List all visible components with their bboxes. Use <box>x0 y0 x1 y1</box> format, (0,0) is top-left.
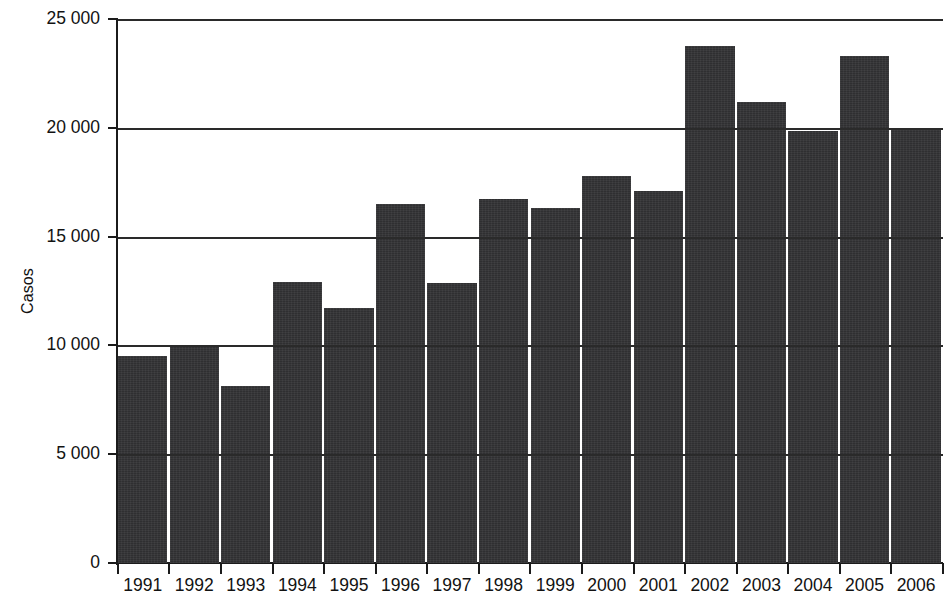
x-tick-2 <box>220 563 222 574</box>
x-tick-label-2000: 2000 <box>581 575 633 595</box>
x-tick-3 <box>272 563 274 574</box>
x-tick-12 <box>736 563 738 574</box>
bar-2003 <box>737 102 786 563</box>
x-tick-11 <box>684 563 686 574</box>
x-tick-4 <box>323 563 325 574</box>
bar-2006 <box>891 129 940 563</box>
bar-2004 <box>788 131 837 563</box>
y-tick-label-10000: 10 000 <box>16 336 100 354</box>
x-tick-7 <box>478 563 480 574</box>
x-tick-9 <box>581 563 583 574</box>
x-tick-15 <box>890 563 892 574</box>
x-tick-label-1992: 1992 <box>168 575 220 595</box>
bar-2005 <box>840 56 889 563</box>
plot-area <box>118 19 943 563</box>
x-tick-label-2002: 2002 <box>684 575 736 595</box>
x-tick-label-1999: 1999 <box>529 575 581 595</box>
x-tick-14 <box>839 563 841 574</box>
y-tick-label-0: 0 <box>16 554 100 572</box>
bar-1997 <box>427 283 476 563</box>
x-tick-label-1991: 1991 <box>117 575 169 595</box>
x-tick-13 <box>787 563 789 574</box>
x-tick-label-2006: 2006 <box>890 575 942 595</box>
x-tick-label-1994: 1994 <box>272 575 324 595</box>
x-tick-label-1993: 1993 <box>220 575 272 595</box>
bar-1998 <box>479 199 528 563</box>
bar-2000 <box>582 176 631 563</box>
x-tick-10 <box>633 563 635 574</box>
x-tick-5 <box>375 563 377 574</box>
x-tick-6 <box>426 563 428 574</box>
bar-1995 <box>324 308 373 563</box>
bar-1999 <box>531 208 580 563</box>
x-tick-label-1996: 1996 <box>375 575 427 595</box>
bar-1991 <box>118 356 167 563</box>
x-tick-label-1995: 1995 <box>323 575 375 595</box>
x-tick-label-1998: 1998 <box>478 575 530 595</box>
bar-1996 <box>376 204 425 563</box>
x-tick-8 <box>529 563 531 574</box>
x-tick-1 <box>168 563 170 574</box>
x-tick-label-2004: 2004 <box>787 575 839 595</box>
bar-1994 <box>273 282 322 563</box>
bar-2001 <box>634 191 683 563</box>
y-axis-tick-labels: 05 00010 00015 00020 00025 000 <box>0 0 100 597</box>
x-tick-label-1997: 1997 <box>426 575 478 595</box>
x-tick-0 <box>117 563 119 574</box>
x-tick-label-2005: 2005 <box>839 575 891 595</box>
bar-1993 <box>221 386 270 563</box>
y-tick-label-15000: 15 000 <box>16 228 100 246</box>
bar-1992 <box>170 347 219 564</box>
x-tick-label-2003: 2003 <box>736 575 788 595</box>
bar-2002 <box>685 46 734 563</box>
x-tick-label-2001: 2001 <box>633 575 685 595</box>
y-tick-label-5000: 5 000 <box>16 445 100 463</box>
y-tick-label-20000: 20 000 <box>16 119 100 137</box>
y-tick-label-25000: 25 000 <box>16 10 100 28</box>
